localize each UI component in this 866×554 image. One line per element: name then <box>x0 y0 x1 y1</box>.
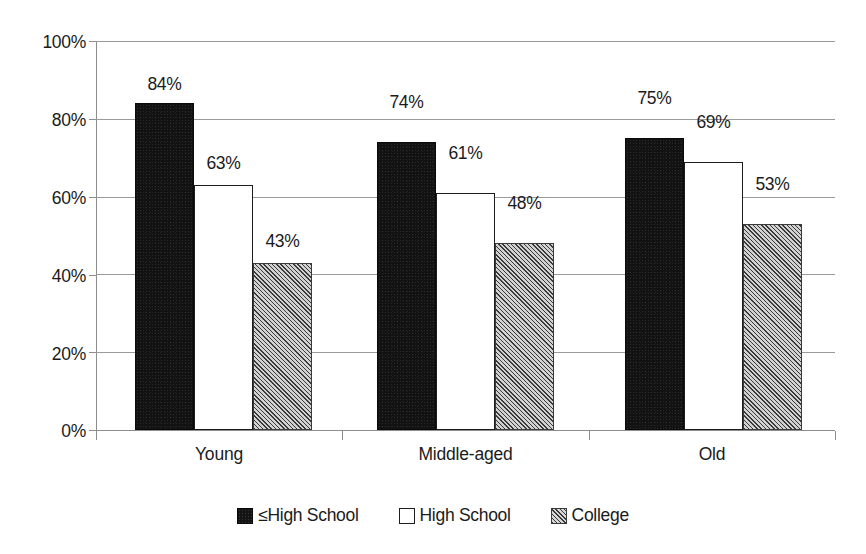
y-axis-tick-0 <box>89 430 96 431</box>
y-axis-label-40: 40% <box>0 266 86 287</box>
legend-label-college: College <box>572 505 629 526</box>
x-axis-label-middle-aged: Middle-aged <box>342 444 589 465</box>
data-label-old-college: 53% <box>743 174 802 195</box>
legend-item-college[interactable]: College <box>551 505 629 526</box>
y-axis-label-100: 100% <box>0 32 86 53</box>
data-label-middle-aged-college: 48% <box>495 193 554 214</box>
bar-middle-aged-college[interactable] <box>495 243 554 430</box>
data-label-young-high-school-or-less: 84% <box>135 74 194 95</box>
legend-label-high-school-or-less: ≤High School <box>258 505 358 526</box>
legend-item-high-school-or-less[interactable]: ≤High School <box>237 505 358 526</box>
bar-young-college[interactable] <box>253 263 312 430</box>
bar-middle-aged-high-school[interactable] <box>436 193 495 430</box>
bar-chart: 100% 80% 60% 40% 20% 0% 84% 6 <box>0 0 866 554</box>
legend-swatch-hatched-icon <box>551 508 567 524</box>
bar-young-high-school[interactable] <box>194 185 253 430</box>
data-label-young-college: 43% <box>253 231 312 252</box>
legend-swatch-white-icon <box>399 508 415 524</box>
gridline-baseline-0 <box>96 430 835 431</box>
y-axis-label-0: 0% <box>0 421 86 442</box>
bar-middle-aged-high-school-or-less[interactable] <box>377 142 436 430</box>
plot-area <box>96 41 835 430</box>
y-axis-tick-60 <box>89 197 96 198</box>
data-label-middle-aged-high-school: 61% <box>436 143 495 164</box>
x-axis-tick-3 <box>835 431 836 440</box>
x-axis-tick-0 <box>96 431 97 440</box>
data-label-old-high-school-or-less: 75% <box>625 88 684 109</box>
data-label-young-high-school: 63% <box>194 153 253 174</box>
bar-old-high-school-or-less[interactable] <box>625 138 684 430</box>
y-axis-tick-20 <box>89 352 96 353</box>
bar-old-high-school[interactable] <box>684 162 743 430</box>
y-axis-label-60: 60% <box>0 188 86 209</box>
x-axis-label-old: Old <box>589 444 835 465</box>
gridline-100 <box>96 41 835 42</box>
x-axis-label-young: Young <box>96 444 342 465</box>
y-axis-tick-40 <box>89 275 96 276</box>
data-label-middle-aged-high-school-or-less: 74% <box>377 92 436 113</box>
legend-swatch-black-icon <box>237 508 253 524</box>
y-axis-tick-100 <box>89 41 96 42</box>
x-axis-tick-2 <box>589 431 590 440</box>
x-axis-tick-1 <box>342 431 343 440</box>
y-axis-label-20: 20% <box>0 344 86 365</box>
bar-young-high-school-or-less[interactable] <box>135 103 194 430</box>
y-axis-tick-80 <box>89 119 96 120</box>
legend-item-high-school[interactable]: High School <box>399 505 511 526</box>
data-label-old-high-school: 69% <box>684 112 743 133</box>
legend-label-high-school: High School <box>420 505 511 526</box>
y-axis-label-80: 80% <box>0 110 86 131</box>
chart-legend: ≤High School High School College <box>0 505 866 526</box>
bar-old-college[interactable] <box>743 224 802 430</box>
